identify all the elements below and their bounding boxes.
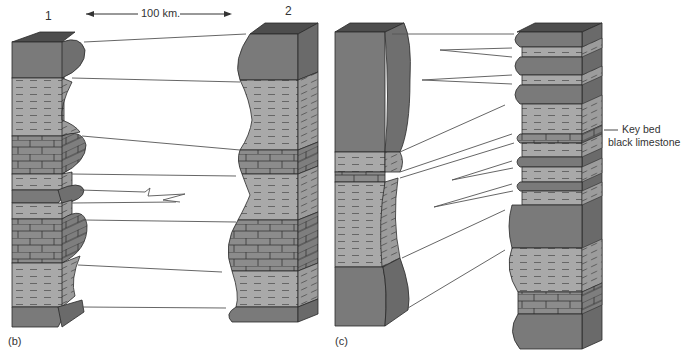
correlation-lines-b [72,34,246,308]
column-2 [228,23,318,322]
distance-label: 100 km. [141,7,180,19]
key-bed-label-line2: black limestone [608,136,680,148]
column-c-right [509,23,602,349]
column-c-left [335,23,410,326]
panel-b-diagram [12,11,318,327]
diagram-canvas [0,0,696,357]
column-2-label: 2 [285,4,292,18]
stratigraphic-correlation-figure: 1 2 100 km. (b) (c) Key bed black limest… [0,0,696,357]
panel-c-label: (c) [335,335,348,347]
column-1 [12,32,87,327]
key-bed-label-line1: Key bed [622,123,661,135]
panel-b-label: (b) [8,335,21,347]
panel-c-diagram [335,23,618,349]
column-1-label: 1 [45,9,52,23]
